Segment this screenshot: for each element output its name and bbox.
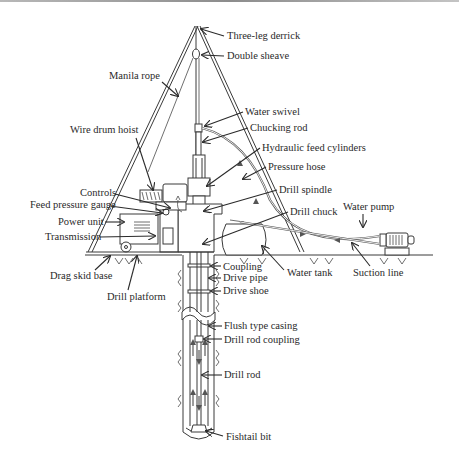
label-drill-rod-coupling: Drill rod coupling — [204, 334, 301, 345]
svg-text:Drive shoe: Drive shoe — [223, 285, 269, 296]
svg-text:Water pump: Water pump — [343, 201, 394, 212]
svg-text:Coupling: Coupling — [223, 261, 263, 272]
svg-text:Wire drum hoist: Wire drum hoist — [70, 124, 138, 135]
label-three-leg-derrick: Three-leg derrick — [201, 29, 301, 41]
label-drill-platform: Drill platform — [107, 256, 166, 302]
svg-text:Drill platform: Drill platform — [107, 291, 166, 302]
svg-text:Drill spindle: Drill spindle — [279, 184, 332, 195]
bore-hole — [178, 255, 219, 439]
drill-rod-coupling — [195, 336, 203, 342]
power-unit — [120, 214, 158, 244]
water-pump — [380, 233, 414, 255]
label-power-unit: Power unit — [58, 216, 124, 227]
svg-text:Drill rod: Drill rod — [224, 369, 261, 380]
coupling — [188, 264, 210, 267]
svg-text:Flush type casing: Flush type casing — [224, 320, 298, 331]
svg-text:Power unit: Power unit — [58, 216, 104, 227]
label-wire-drum-hoist: Wire drum hoist — [70, 124, 153, 190]
svg-text:Three-leg derrick: Three-leg derrick — [227, 30, 301, 41]
label-drill-rod: Drill rod — [202, 369, 261, 380]
break-symbol — [182, 307, 215, 325]
svg-text:Feed pressure gauge: Feed pressure gauge — [30, 199, 116, 210]
svg-text:Chucking rod: Chucking rod — [250, 122, 308, 133]
svg-text:Water swivel: Water swivel — [245, 106, 300, 117]
label-drive-pipe: Drive pipe — [209, 272, 268, 283]
label-water-tank: Water tank — [262, 246, 333, 278]
label-drive-shoe: Drive shoe — [211, 285, 269, 296]
svg-text:Manila rope: Manila rope — [109, 70, 160, 81]
label-fishtail-bit: Fishtail bit — [206, 431, 271, 442]
svg-text:Fishtail bit: Fishtail bit — [226, 431, 271, 442]
svg-text:Transmission: Transmission — [45, 231, 102, 242]
svg-text:Controls: Controls — [80, 187, 116, 198]
svg-text:Water tank: Water tank — [287, 267, 333, 278]
label-flush-type-casing: Flush type casing — [209, 320, 298, 331]
svg-text:Drive pipe: Drive pipe — [223, 272, 268, 283]
svg-text:Drill chuck: Drill chuck — [290, 206, 338, 217]
svg-text:Suction line: Suction line — [353, 267, 404, 278]
svg-text:Hydraulic feed cylinders: Hydraulic feed cylinders — [262, 142, 366, 153]
svg-text:Drag skid base: Drag skid base — [50, 270, 113, 281]
label-chucking-rod: Chucking rod — [203, 122, 308, 142]
label-drag-skid-base: Drag skid base — [50, 256, 113, 281]
drive-shoe — [188, 290, 210, 293]
feed-pressure-gauge — [163, 209, 169, 215]
svg-text:Double sheave: Double sheave — [227, 50, 289, 61]
label-water-pump: Water pump — [343, 201, 394, 227]
label-coupling: Coupling — [211, 261, 263, 272]
svg-text:Drill rod coupling: Drill rod coupling — [224, 334, 301, 345]
double-sheave — [193, 49, 200, 59]
drilling-rig-diagram: Three-leg derrick Double sheave Manila r… — [0, 0, 459, 463]
fishtail-bit — [191, 425, 207, 432]
svg-text:Pressure hose: Pressure hose — [268, 161, 326, 172]
